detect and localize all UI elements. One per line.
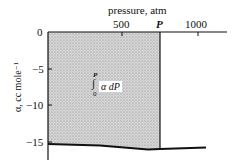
- x-tick-500: 500: [113, 19, 130, 30]
- y-axis-label: α, cc mole⁻¹: [12, 62, 23, 112]
- x-tick-p: P: [156, 19, 163, 30]
- x-tick-1000: 1000: [185, 19, 207, 30]
- integral-lower: 0: [91, 90, 99, 98]
- integral-body: α dP: [99, 81, 122, 92]
- integral-annotation: P ∫ 0 α dP: [91, 74, 125, 98]
- y-tick-15: −15: [26, 137, 43, 148]
- y-tick-0: 0: [37, 27, 43, 38]
- integral-sign: ∫: [90, 77, 97, 89]
- y-tick-10: −10: [26, 100, 43, 111]
- x-axis-label: pressure, atm: [108, 5, 167, 16]
- y-tick-5: −5: [32, 64, 44, 75]
